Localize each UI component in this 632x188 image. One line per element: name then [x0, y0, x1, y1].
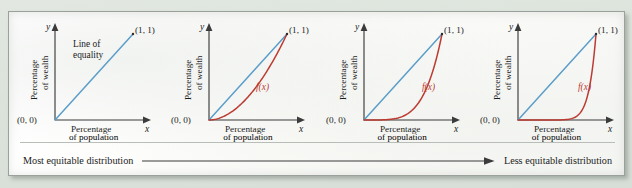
y-axis-arrowhead-3	[360, 23, 367, 31]
lorenz-chart-3-svg: y x (0, 0) (1, 1) f(x) Percentage Percen…	[318, 12, 472, 140]
x-axis-var-1: x	[144, 124, 150, 134]
lorenz-chart-1: y x (0, 0) (1, 1) Line of equality Perce…	[9, 12, 163, 140]
corner-point-1	[132, 33, 134, 35]
y-caption-line2-4: of wealth	[503, 55, 513, 90]
equity-scale-bar: Most equitable distribution Less equitab…	[9, 140, 625, 176]
origin-label-1: (0, 0)	[17, 115, 37, 125]
equality-line-2	[209, 34, 287, 120]
y-axis-var-3: y	[354, 22, 360, 32]
origin-label-2: (0, 0)	[171, 115, 191, 125]
scale-left-label: Most equitable distribution	[23, 156, 133, 166]
figure-panel: y x (0, 0) (1, 1) Line of equality Perce…	[8, 11, 625, 176]
corner-label-3: (1, 1)	[444, 25, 464, 35]
x-axis-arrowhead-4	[606, 117, 614, 124]
lorenz-chart-3: y x (0, 0) (1, 1) f(x) Percentage Percen…	[318, 12, 472, 140]
scale-row: Most equitable distribution Less equitab…	[9, 152, 625, 170]
x-axis-arrowhead-3	[452, 117, 460, 124]
origin-label-3: (0, 0)	[326, 115, 346, 125]
corner-label-2: (1, 1)	[289, 25, 309, 35]
lorenz-chart-4: y x (0, 0) (1, 1) f(x) Percentage Percen…	[472, 12, 625, 140]
x-axis-arrowhead-1	[143, 117, 151, 124]
y-axis-var-1: y	[45, 22, 51, 32]
y-axis-arrowhead-4	[514, 23, 521, 31]
scale-arrow-icon	[142, 156, 495, 166]
scale-right-label: Less equitable distribution	[504, 156, 612, 166]
y-axis-arrowhead-1	[52, 23, 59, 31]
y-caption-group-1: Percentage of wealth	[29, 55, 50, 100]
y-caption-line2-3: of wealth	[349, 55, 359, 90]
y-caption-line1-4: Percentage	[492, 60, 502, 100]
curve-label-2: f(x)	[256, 82, 269, 93]
corner-point-4	[595, 33, 597, 35]
y-caption-group-2: Percentage of wealth	[183, 55, 204, 100]
bar-divider	[20, 142, 615, 143]
corner-point-3	[440, 33, 442, 35]
curve-label-4: f(x)	[578, 82, 591, 93]
y-caption-line1-3: Percentage	[338, 60, 348, 100]
x-axis-var-2: x	[298, 124, 304, 134]
charts-row: y x (0, 0) (1, 1) Line of equality Perce…	[9, 12, 625, 140]
x-axis-var-4: x	[607, 124, 613, 134]
origin-label-4: (0, 0)	[480, 115, 500, 125]
lorenz-chart-1-svg: y x (0, 0) (1, 1) Line of equality Perce…	[9, 12, 163, 140]
curve-label-3: f(x)	[422, 82, 435, 93]
y-caption-line1-1: Percentage	[29, 60, 39, 100]
y-axis-var-2: y	[199, 22, 205, 32]
x-axis-var-3: x	[453, 124, 459, 134]
equality-annotation-line1-1: Line of	[73, 39, 101, 49]
lorenz-chart-2: y x (0, 0) (1, 1) f(x) Percentage Percen…	[163, 12, 317, 140]
corner-point-2	[286, 33, 288, 35]
y-caption-line1-2: Percentage	[183, 60, 193, 100]
corner-label-4: (1, 1)	[598, 25, 618, 35]
x-axis-arrowhead-2	[297, 117, 305, 124]
corner-label-1: (1, 1)	[135, 25, 155, 35]
y-caption-line2-2: of wealth	[194, 55, 204, 90]
y-caption-group-3: Percentage of wealth	[338, 55, 359, 100]
y-axis-var-4: y	[508, 22, 514, 32]
y-caption-line2-1: of wealth	[40, 55, 50, 90]
y-axis-arrowhead-2	[206, 23, 213, 31]
lorenz-chart-2-svg: y x (0, 0) (1, 1) f(x) Percentage Percen…	[163, 12, 317, 140]
lorenz-chart-4-svg: y x (0, 0) (1, 1) f(x) Percentage Percen…	[472, 12, 625, 140]
equality-annotation-line2-1: equality	[73, 50, 104, 60]
y-caption-group-4: Percentage of wealth	[492, 55, 513, 100]
